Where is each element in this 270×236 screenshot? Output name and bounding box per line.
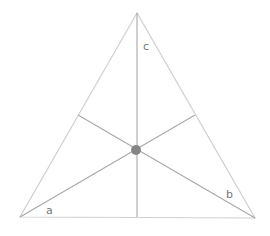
label-c: c	[143, 40, 149, 53]
diagram-canvas: c a b	[0, 0, 270, 236]
centroid-dot	[131, 145, 141, 155]
median-a	[20, 115, 195, 217]
label-b: b	[226, 188, 233, 201]
median-b	[78, 115, 255, 218]
triangle-diagram: c a b	[0, 0, 270, 236]
label-a: a	[46, 204, 53, 217]
